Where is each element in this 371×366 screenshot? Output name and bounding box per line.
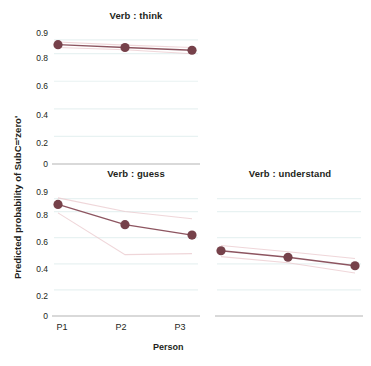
data-point-understand-P1 <box>216 246 225 255</box>
data-point-understand-P3 <box>350 261 359 270</box>
x-tick-p2: P2 <box>106 322 136 332</box>
x-tick-p1: P1 <box>47 322 77 332</box>
x-tick-p3: P3 <box>165 322 195 332</box>
x-axis-title: Person <box>153 342 184 352</box>
data-point-understand-P2 <box>283 253 292 262</box>
panel-plot-understand <box>0 0 371 366</box>
chart-figure: Predicted probability of SubC='zero' Ver… <box>0 0 371 366</box>
